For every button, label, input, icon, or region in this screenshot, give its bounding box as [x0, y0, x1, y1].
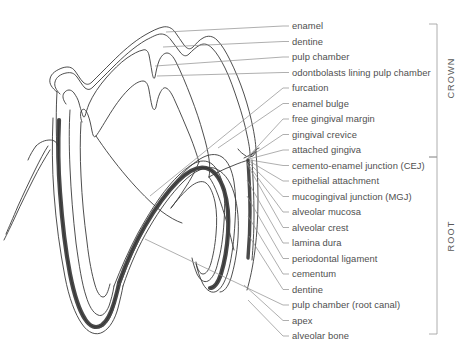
label-enamel-bulge: enamel bulge	[292, 99, 349, 108]
label-root-canal: pulp chamber (root canal)	[292, 300, 400, 309]
label-periodontal-ligament: periodontal ligament	[292, 254, 377, 263]
label-alveolar-crest: alveolar crest	[292, 223, 348, 232]
label-attached-gingiva: attached gingiva	[292, 145, 361, 154]
label-mgj: mucogingival junction (MGJ)	[292, 192, 412, 201]
label-free-gingival-margin: free gingival margin	[292, 114, 375, 123]
label-alveolar-bone: alveolar bone	[292, 331, 349, 340]
bracket-root	[429, 157, 437, 334]
bracket-crown	[429, 24, 437, 157]
label-enamel: enamel	[292, 21, 323, 30]
bracket-label-root: ROOT	[446, 221, 456, 252]
label-furcation: furcation	[292, 83, 328, 92]
label-lamina-dura: lamina dura	[292, 238, 342, 247]
label-epithelial-attachment: epithelial attachment	[292, 176, 379, 185]
label-odontoblasts: odontbolasts lining pulp chamber	[292, 68, 431, 77]
label-cementum: cementum	[292, 269, 336, 278]
label-cej: cemento-enamel junction (CEJ)	[292, 161, 425, 170]
label-gingival-crevice: gingival crevice	[292, 130, 357, 139]
label-dentine-root: dentine	[292, 285, 323, 294]
tooth-anatomy-diagram: enameldentinepulp chamberodontbolasts li…	[0, 0, 467, 356]
label-pulp-chamber: pulp chamber	[292, 52, 349, 61]
label-apex: apex	[292, 316, 313, 325]
label-alveolar-mucosa: alveolar mucosa	[292, 207, 361, 216]
bracket-label-crown: CROWN	[446, 57, 456, 98]
label-dentine-crown: dentine	[292, 37, 323, 46]
